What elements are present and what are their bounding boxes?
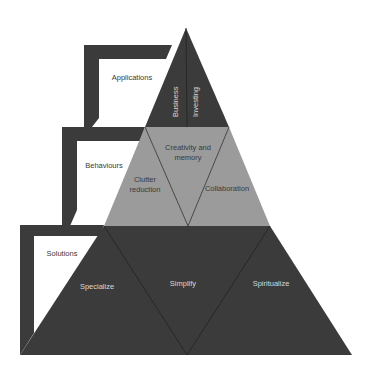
bottom-tier xyxy=(20,226,352,355)
label-business: Business xyxy=(171,86,180,117)
label-creativity-line1: Creativity and xyxy=(165,143,211,152)
label-behaviours: Behaviours xyxy=(85,161,123,170)
pyramid-diagram: Applications Behaviours Solutions Busine… xyxy=(0,0,376,377)
label-solutions: Solutions xyxy=(47,249,78,258)
label-creativity-line2: memory xyxy=(174,153,201,162)
label-spiritualize: Spiritualize xyxy=(253,279,290,288)
label-clutter-line2: reduction xyxy=(130,185,161,194)
top-tier xyxy=(145,28,229,127)
label-simplify: Simplify xyxy=(170,279,197,288)
label-clutter-line1: Clutter xyxy=(134,175,157,184)
label-investing: Investing xyxy=(191,87,200,117)
middle-tier xyxy=(104,127,270,226)
label-applications: Applications xyxy=(112,73,153,82)
label-specialize: Specialize xyxy=(80,282,114,291)
label-collaboration: Collaboration xyxy=(205,184,249,193)
